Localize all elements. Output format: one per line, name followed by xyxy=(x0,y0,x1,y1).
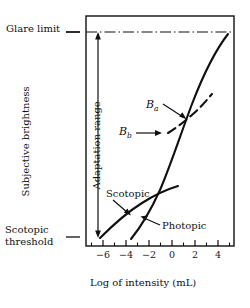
x-tick-label: 0 xyxy=(164,249,180,260)
y-axis-label: Subjective brightness xyxy=(21,86,32,196)
adaptation-curve xyxy=(168,94,212,133)
x-tick-label: 4 xyxy=(210,249,226,260)
scotopic-threshold-label: Scotopic threshold xyxy=(5,224,53,247)
scotopic-threshold-label-line1: Scotopic xyxy=(5,224,53,236)
bb-leader-arrow xyxy=(136,130,162,136)
plot-frame xyxy=(86,16,234,246)
scotopic-threshold-label-line2: threshold xyxy=(5,236,53,248)
x-axis-label: Log of intensity (mL) xyxy=(90,278,196,289)
ba-leader-arrow xyxy=(163,104,187,119)
scotopic-curve-label: Scotopic xyxy=(106,189,150,200)
plot-canvas xyxy=(0,0,250,308)
photopic-curve-label: Photopic xyxy=(162,221,206,232)
glare-limit-label: Glare limit xyxy=(6,24,60,35)
bb-label: Bb xyxy=(119,126,132,140)
photopic-curve xyxy=(131,34,228,239)
ba-label-base: B xyxy=(146,98,154,111)
ba-label: Ba xyxy=(146,99,159,113)
x-tick-label: −6 xyxy=(95,249,111,260)
scotopic-leader-arrow xyxy=(113,200,131,216)
x-tick-label: −4 xyxy=(118,249,134,260)
adaptation-range-label: Adaptation range xyxy=(92,101,103,189)
bb-label-base: B xyxy=(119,125,127,138)
bb-label-subscript: b xyxy=(127,131,132,140)
x-tick-label: 2 xyxy=(187,249,203,260)
brightness-adaptation-figure: Glare limit Scotopic threshold Subjectiv… xyxy=(0,0,250,308)
x-tick-label: −2 xyxy=(141,249,157,260)
ba-label-subscript: a xyxy=(154,104,158,113)
